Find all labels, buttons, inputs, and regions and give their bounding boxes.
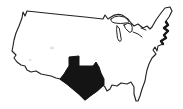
scan-smudge xyxy=(28,59,31,61)
texas-highlighted-state xyxy=(60,56,104,100)
lake-erie xyxy=(133,32,142,37)
us-map-image xyxy=(0,0,183,109)
atlantic-coast-heavy-stroke xyxy=(161,22,168,44)
scan-smudge xyxy=(50,47,54,50)
lake-michigan xyxy=(117,26,122,41)
us-outline-map-svg xyxy=(0,0,183,109)
lake-huron xyxy=(124,23,132,32)
